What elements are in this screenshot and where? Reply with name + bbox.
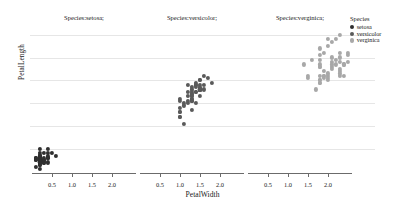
data-point xyxy=(318,81,322,85)
data-point xyxy=(302,62,306,66)
legend-title: Species xyxy=(350,16,381,23)
data-point xyxy=(38,147,42,151)
facet-panel-setosa: Species:setosa;0.51.01.52.0 xyxy=(32,14,136,174)
x-axis-tick-label: 2.0 xyxy=(216,181,224,188)
data-point xyxy=(338,33,342,37)
facet-panel-verginica: Species:verginica;0.51.01.52.0 xyxy=(248,14,352,174)
legend-item-label: verginica xyxy=(357,37,380,44)
data-point xyxy=(346,60,350,64)
x-axis-tick-label: 2.0 xyxy=(324,181,332,188)
x-axis-tick-label: 0.5 xyxy=(156,181,164,188)
data-point xyxy=(330,67,334,71)
data-point xyxy=(38,167,42,171)
data-point xyxy=(46,147,50,151)
x-axis-tick xyxy=(52,174,53,177)
x-axis-tick-label: 0.5 xyxy=(48,181,56,188)
data-point xyxy=(190,108,194,112)
data-point xyxy=(318,58,322,62)
x-axis-tick-label: 1.5 xyxy=(196,181,204,188)
x-axis-tick xyxy=(268,174,269,177)
x-axis-tick xyxy=(200,174,201,177)
x-axis-tick xyxy=(180,174,181,177)
x-axis-tick xyxy=(92,174,93,177)
x-axis-line xyxy=(140,173,244,174)
data-point xyxy=(314,88,318,92)
data-point xyxy=(326,78,330,82)
data-point xyxy=(338,51,342,55)
data-point xyxy=(206,76,210,80)
data-point xyxy=(334,62,338,66)
x-axis-tick-label: 2.0 xyxy=(108,181,116,188)
data-point xyxy=(198,94,202,98)
data-point xyxy=(326,44,330,48)
data-point xyxy=(194,101,198,105)
facet-panel-versicolor: Species:versicolor;0.51.01.52.0 xyxy=(140,14,244,174)
x-axis-tick xyxy=(72,174,73,177)
legend-item-verginica[interactable]: verginica xyxy=(350,37,381,44)
scatter-plot-chart: PetalLength Species:setosa;0.51.01.52.0S… xyxy=(0,0,405,211)
x-axis-tick xyxy=(328,174,329,177)
data-point xyxy=(182,122,186,126)
data-point xyxy=(54,154,58,158)
data-point xyxy=(210,81,214,85)
data-point xyxy=(310,58,314,62)
x-axis-line xyxy=(32,173,136,174)
x-axis-tick xyxy=(160,174,161,177)
x-axis-line xyxy=(248,173,352,174)
legend-swatch-icon xyxy=(350,38,354,42)
data-point xyxy=(342,74,346,78)
data-point xyxy=(46,161,50,165)
data-point xyxy=(46,156,50,160)
x-axis-tick-label: 1.5 xyxy=(88,181,96,188)
x-axis-tick xyxy=(220,174,221,177)
x-axis-tick xyxy=(288,174,289,177)
data-point xyxy=(178,115,182,119)
y-axis-title: PetalLength xyxy=(18,26,26,98)
data-point xyxy=(338,56,342,60)
plot-area: 0.51.01.52.0 xyxy=(32,28,136,174)
data-point xyxy=(178,110,182,114)
x-axis-tick-label: 1.0 xyxy=(176,181,184,188)
panel-title: Species:versicolor; xyxy=(140,14,244,21)
x-axis-tick-label: 0.5 xyxy=(264,181,272,188)
x-axis-tick-label: 1.5 xyxy=(304,181,312,188)
data-point xyxy=(318,46,322,50)
legend-swatch-icon xyxy=(350,25,354,29)
x-axis-title: PetalWidth xyxy=(0,190,405,199)
plot-area: 0.51.01.52.0 xyxy=(248,28,352,174)
data-point xyxy=(318,65,322,69)
x-axis-tick-label: 1.0 xyxy=(284,181,292,188)
x-axis-tick xyxy=(308,174,309,177)
data-point xyxy=(178,106,182,110)
x-axis-tick xyxy=(112,174,113,177)
panel-title: Species:verginica; xyxy=(248,14,352,21)
legend: Species setosaversicolorverginica xyxy=(350,16,381,44)
data-point xyxy=(322,51,326,55)
data-point xyxy=(334,37,338,41)
plot-area: 0.51.01.52.0 xyxy=(140,28,244,174)
legend-entries: setosaversicolorverginica xyxy=(350,24,381,44)
data-point xyxy=(198,78,202,82)
data-point xyxy=(202,88,206,92)
legend-swatch-icon xyxy=(350,32,354,36)
panel-title: Species:setosa; xyxy=(32,14,136,21)
data-point xyxy=(202,83,206,87)
x-axis-tick-label: 1.0 xyxy=(68,181,76,188)
